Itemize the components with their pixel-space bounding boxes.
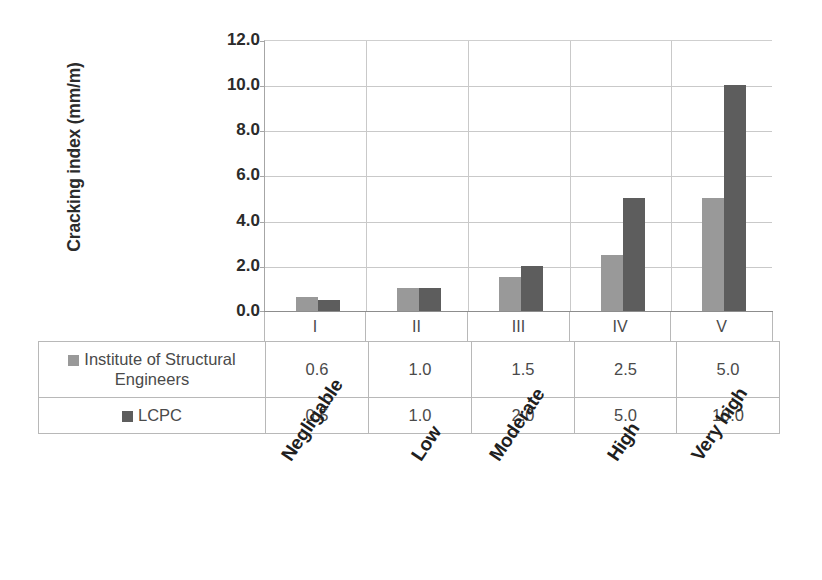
bar-group-IV [570,41,671,311]
table-cell: 2.5 [575,342,677,398]
y-axis-tick-labels: 12.0 10.0 8.0 6.0 4.0 2.0 0.0 [206,30,260,322]
bar-ise-IV[interactable] [601,255,623,312]
series-label-cell: LCPC [39,398,266,434]
y-tick-label: 6.0 [206,165,260,185]
bar-lcpc-II[interactable] [419,288,441,311]
bar-ise-V[interactable] [702,198,724,311]
y-tick-label: 4.0 [206,211,260,231]
legend-swatch-dark-icon [122,411,133,422]
bar-lcpc-V[interactable] [724,85,746,311]
roman-header-cell: IV [570,312,671,341]
table-cell: 5.0 [677,342,780,398]
table-cell: 1.0 [369,398,472,434]
table-cell: 1.0 [369,342,472,398]
y-axis-title: Cracking index (mm/m) [64,7,90,307]
roman-numeral-header-row: I II III IV V [264,312,773,341]
series-values-table: Institute of Structural Engineers 0.6 1.… [38,341,780,434]
roman-header-cell: III [468,312,570,341]
bar-group-III [468,41,570,311]
bar-lcpc-I[interactable] [318,300,340,311]
y-tick-label: 12.0 [206,30,260,50]
table-cell: 0.6 [266,342,369,398]
series-label: Institute of Structural Engineers [84,350,235,387]
table-cell: 1.5 [472,342,575,398]
legend-swatch-light-icon [68,355,79,366]
y-tick-label: 8.0 [206,120,260,140]
chart-plot-area [264,40,772,311]
bar-group-I [265,41,366,311]
bar-ise-III[interactable] [499,277,521,311]
roman-header-cell: V [671,312,773,341]
bar-lcpc-III[interactable] [521,266,543,311]
y-tick-label: 10.0 [206,75,260,95]
bar-ise-I[interactable] [296,297,318,311]
y-tick-label: 0.0 [206,301,260,321]
y-tick-label: 2.0 [206,256,260,276]
series-label: LCPC [138,406,182,424]
bar-ise-II[interactable] [397,288,419,311]
bar-group-II [366,41,468,311]
roman-header-cell: I [264,312,366,341]
bar-lcpc-IV[interactable] [623,198,645,311]
table-row: LCPC 0.5 1.0 2.0 5.0 10.0 [39,398,780,434]
roman-header-cell: II [366,312,468,341]
bar-group-V [671,41,773,311]
series-label-cell: Institute of Structural Engineers [39,342,266,398]
table-row: Institute of Structural Engineers 0.6 1.… [39,342,780,398]
category-axis-labels: Negligable Low Moderate High Very high [264,440,773,580]
